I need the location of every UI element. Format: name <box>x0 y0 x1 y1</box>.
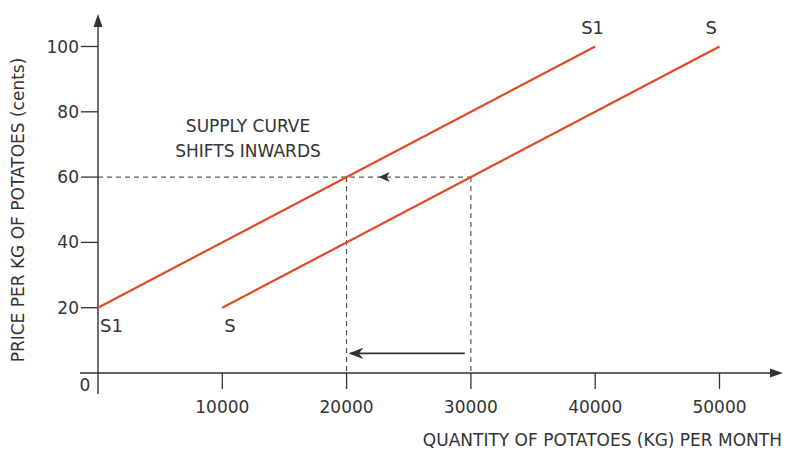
supply-shift-chart: 20406080100 1000020000300004000050000 0 … <box>0 0 806 468</box>
x-tick-label: 30000 <box>444 397 498 417</box>
curve-start-label: S <box>224 315 235 336</box>
origin-label: 0 <box>80 375 91 395</box>
annotation-line-2: SHIFTS INWARDS <box>175 141 321 161</box>
curve-end-label: S <box>706 17 717 38</box>
y-tick-label: 80 <box>57 102 79 122</box>
y-tick-label: 100 <box>47 37 79 57</box>
x-tick-label: 40000 <box>568 397 622 417</box>
x-tick-label: 50000 <box>692 397 746 417</box>
shift-arrows <box>350 172 464 353</box>
shift-annotation: SUPPLY CURVE SHIFTS INWARDS <box>175 116 321 161</box>
y-axis-title: PRICE PER KG OF POTATOES (cents) <box>8 58 28 363</box>
curve-start-label: S1 <box>100 315 123 336</box>
annotation-line-1: SUPPLY CURVE <box>186 116 310 136</box>
x-axis-title: QUANTITY OF POTATOES (KG) PER MONTH <box>423 430 782 450</box>
axes <box>80 14 783 394</box>
y-ticks: 20406080100 <box>47 37 98 318</box>
x-axis-arrow-icon <box>770 369 783 378</box>
y-axis-arrow-icon <box>94 14 103 27</box>
curve-end-label: S1 <box>581 17 604 38</box>
y-tick-label: 40 <box>57 232 79 252</box>
y-tick-label: 60 <box>57 167 79 187</box>
supply-curves: S1S1SS <box>98 17 720 336</box>
y-tick-label: 20 <box>57 298 79 318</box>
x-tick-label: 10000 <box>195 397 249 417</box>
x-ticks: 1000020000300004000050000 <box>195 373 746 417</box>
x-tick-label: 20000 <box>320 397 374 417</box>
